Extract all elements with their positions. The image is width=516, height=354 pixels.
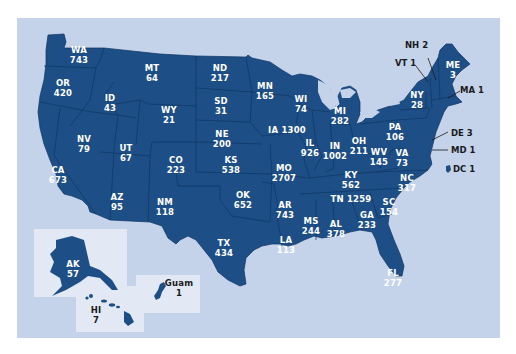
state-label-tn: TN 1259	[331, 195, 372, 205]
inset-label-hi: HI7	[91, 306, 102, 325]
state-label-sd: SD31	[214, 97, 228, 116]
us-map	[17, 18, 500, 338]
inset-label-guam: Guam1	[165, 279, 193, 298]
state-label-id: ID43	[104, 94, 116, 113]
state-label-mn: MN165	[256, 82, 274, 101]
state-label-in: IN1002	[323, 142, 347, 161]
state-label-md: MD 1	[451, 145, 475, 155]
state-label-nv: NV79	[77, 135, 91, 154]
state-label-la: LA113	[277, 236, 295, 255]
state-label-nc: NC317	[398, 174, 416, 193]
state-label-ga: GA233	[358, 211, 376, 230]
state-label-ut: UT67	[119, 144, 132, 163]
state-label-il: IL926	[301, 139, 319, 158]
state-label-sc: SC154	[380, 198, 398, 217]
dc-symbol	[446, 165, 451, 173]
state-label-co: CO223	[167, 156, 185, 175]
state-label-nd: ND217	[211, 64, 229, 83]
state-label-ok: OK652	[234, 191, 252, 210]
state-label-ia: IA 1300	[268, 126, 306, 136]
state-label-mt: MT64	[145, 64, 160, 83]
state-label-al: AL378	[327, 220, 345, 239]
state-label-oh: OH211	[350, 137, 368, 156]
map-panel: WA743 OR420 CA673 ID43 NV79 MT64 WY21 UT…	[17, 18, 500, 338]
state-label-pa: PA106	[386, 123, 404, 142]
state-label-or: OR420	[54, 79, 72, 98]
state-label-ca: CA673	[49, 166, 67, 185]
state-label-fl: FL277	[384, 269, 402, 288]
state-label-ks: KS538	[222, 156, 240, 175]
state-label-mi: MI282	[331, 107, 349, 126]
state-label-mo: MO2707	[272, 164, 296, 183]
state-label-tx: TX434	[215, 239, 233, 258]
state-label-ar: AR743	[276, 201, 294, 220]
state-label-dc: DC 1	[453, 164, 475, 174]
state-label-ne: NE200	[213, 130, 231, 149]
state-label-me: ME3	[446, 61, 461, 80]
state-label-wa: WA743	[70, 46, 88, 65]
state-label-vt: VT 1	[395, 58, 416, 68]
inset-label-ak: AK57	[66, 260, 80, 279]
state-label-de: DE 3	[451, 128, 473, 138]
state-label-ky: KY562	[342, 171, 360, 190]
state-label-va: VA73	[396, 149, 409, 168]
state-label-ma: MA 1	[460, 85, 484, 95]
state-label-nh: NH 2	[405, 40, 428, 50]
state-label-nm: NM118	[156, 198, 174, 217]
state-label-ny: NY28	[410, 91, 424, 110]
state-label-wv: WV145	[370, 148, 388, 167]
state-label-wi: WI74	[295, 95, 308, 114]
state-label-ms: MS244	[302, 217, 320, 236]
state-label-wy: WY21	[161, 106, 177, 125]
state-label-az: AZ95	[110, 193, 123, 212]
